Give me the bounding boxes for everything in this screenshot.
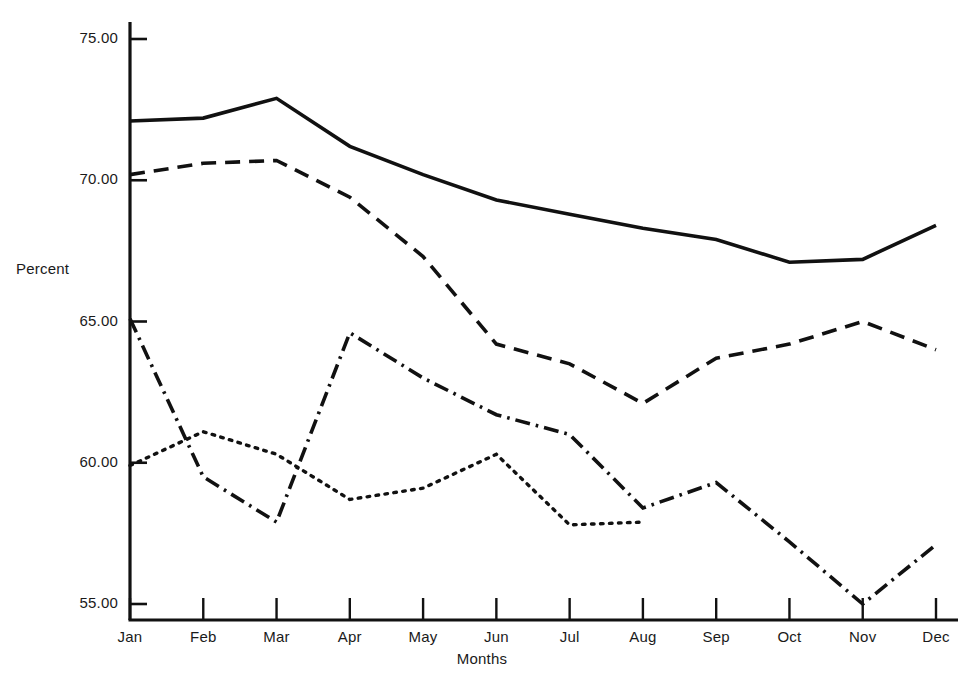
series-dash-dot — [130, 319, 936, 604]
y-tick-label: 75.00 — [40, 29, 118, 46]
x-axis-ticks — [130, 598, 936, 620]
x-tick-label-aug: Aug — [615, 628, 671, 645]
line-chart: 55.0060.0065.0070.0075.00 JanFebMarAprMa… — [0, 0, 964, 689]
axis-lines — [129, 22, 959, 620]
x-tick-label-apr: Apr — [322, 628, 378, 645]
x-axis-title: Months — [0, 650, 964, 667]
x-tick-label-jul: Jul — [542, 628, 598, 645]
y-tick-label: 60.00 — [40, 453, 118, 470]
x-tick-label-jun: Jun — [468, 628, 524, 645]
series-solid — [130, 98, 936, 262]
x-tick-label-feb: Feb — [175, 628, 231, 645]
y-tick-label: 55.00 — [40, 594, 118, 611]
series-dashed — [130, 160, 936, 403]
x-tick-label-sep: Sep — [688, 628, 744, 645]
x-tick-label-may: May — [395, 628, 451, 645]
chart-plot-area — [0, 0, 964, 689]
x-tick-label-mar: Mar — [249, 628, 305, 645]
x-tick-label-jan: Jan — [102, 628, 158, 645]
y-tick-label: 70.00 — [40, 170, 118, 187]
y-axis-title: Percent — [16, 260, 69, 277]
x-tick-label-nov: Nov — [835, 628, 891, 645]
x-tick-label-oct: Oct — [761, 628, 817, 645]
data-series-group — [130, 98, 936, 604]
x-tick-label-dec: Dec — [908, 628, 964, 645]
y-tick-label: 65.00 — [40, 312, 118, 329]
